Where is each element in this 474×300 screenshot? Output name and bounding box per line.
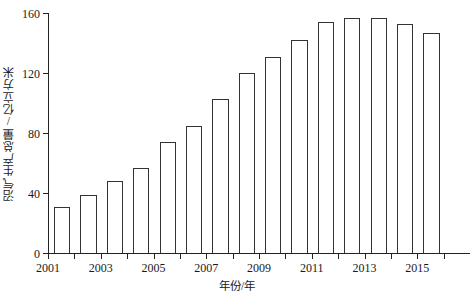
bar-2006 bbox=[186, 126, 202, 254]
bar-2004 bbox=[133, 168, 149, 254]
x-tick-label-2011: 2011 bbox=[300, 261, 324, 276]
bar-2002 bbox=[80, 195, 96, 254]
bar-2013 bbox=[371, 18, 387, 254]
y-axis-title: 沼气生产总量/亿立方米 bbox=[0, 18, 18, 248]
y-axis-line bbox=[48, 13, 49, 253]
x-tick bbox=[154, 253, 155, 259]
x-tick-label-2001: 2001 bbox=[36, 261, 60, 276]
bar-2010 bbox=[291, 40, 307, 253]
x-tick bbox=[48, 253, 49, 259]
bar-2001 bbox=[54, 207, 70, 254]
bar-2003 bbox=[107, 181, 123, 253]
y-tick-160: 160 bbox=[43, 13, 48, 14]
y-tick-40: 40 bbox=[43, 193, 48, 194]
x-tick bbox=[312, 253, 313, 259]
x-tick-label-2009: 2009 bbox=[247, 261, 271, 276]
x-tick bbox=[417, 253, 418, 259]
bar-2015 bbox=[423, 33, 439, 254]
x-tick bbox=[180, 253, 181, 259]
x-tick-label-2003: 2003 bbox=[89, 261, 113, 276]
x-tick bbox=[74, 253, 75, 259]
x-tick bbox=[365, 253, 366, 259]
biogas-production-bar-chart: 沼气生产总量/亿立方米 04080120160 2001200320052007… bbox=[0, 0, 474, 300]
x-tick bbox=[285, 253, 286, 259]
x-tick-label-2007: 2007 bbox=[194, 261, 218, 276]
x-tick bbox=[101, 253, 102, 259]
y-tick-label: 120 bbox=[22, 66, 40, 81]
x-axis-title: 年份/年 bbox=[0, 277, 474, 293]
x-tick bbox=[206, 253, 207, 259]
x-tick bbox=[233, 253, 234, 259]
y-tick-label: 80 bbox=[28, 126, 40, 141]
y-tick-label: 160 bbox=[22, 6, 40, 21]
bar-2007 bbox=[212, 99, 228, 254]
x-tick-label-2013: 2013 bbox=[353, 261, 377, 276]
x-tick bbox=[444, 253, 445, 259]
bar-2008 bbox=[239, 73, 255, 253]
x-tick bbox=[127, 253, 128, 259]
y-tick-120: 120 bbox=[43, 73, 48, 74]
bar-2005 bbox=[160, 142, 176, 253]
x-tick-label-2005: 2005 bbox=[142, 261, 166, 276]
x-tick bbox=[338, 253, 339, 259]
plot-area: 04080120160 2001200320052007200920112013… bbox=[48, 13, 470, 253]
bar-2011 bbox=[318, 22, 334, 253]
y-tick-label: 40 bbox=[28, 186, 40, 201]
bar-2009 bbox=[265, 57, 281, 254]
bar-2012 bbox=[344, 18, 360, 254]
y-tick-label: 0 bbox=[34, 246, 40, 261]
bar-2014 bbox=[397, 24, 413, 254]
x-tick-label-2015: 2015 bbox=[405, 261, 429, 276]
x-tick bbox=[391, 253, 392, 259]
y-tick-80: 80 bbox=[43, 133, 48, 134]
x-tick bbox=[259, 253, 260, 259]
